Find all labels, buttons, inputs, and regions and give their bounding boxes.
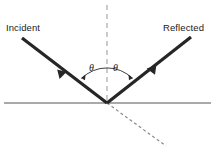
- arc-right-tip-icon: [129, 75, 134, 81]
- arc-left-tip-icon: [81, 75, 86, 81]
- reflection-diagram: Incident Reflected θ θ: [0, 0, 214, 155]
- angle-of-reflection-label: θ: [113, 62, 118, 73]
- incident-ray-label: Incident: [6, 22, 40, 33]
- angle-of-incidence-label: θ: [89, 62, 94, 73]
- reflected-ray-label: Reflected: [163, 22, 204, 33]
- transmitted-dashed-line: [107, 103, 166, 146]
